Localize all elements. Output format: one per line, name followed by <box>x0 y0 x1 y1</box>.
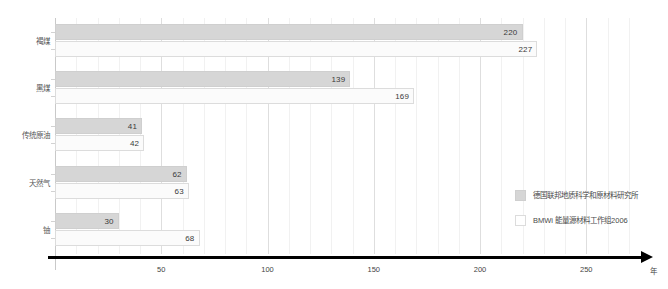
bar-row: 169 <box>55 88 650 104</box>
bar[interactable]: 68 <box>55 230 200 246</box>
value-axis-unit-label: 年 <box>650 265 657 276</box>
value-axis-arrow-icon <box>641 251 653 263</box>
legend-swatch-icon <box>515 190 526 201</box>
legend-item[interactable]: 德国联邦地质科学和原材料研究所 <box>515 190 638 201</box>
bar-row: 42 <box>55 135 650 151</box>
category-axis-label: 褐煤 <box>0 37 50 46</box>
category-axis-label: 传统原油 <box>0 131 50 140</box>
category-axis-label: 铀 <box>0 226 50 235</box>
bar[interactable]: 62 <box>55 166 187 182</box>
bar[interactable]: 227 <box>55 41 537 57</box>
bar[interactable]: 169 <box>55 88 414 104</box>
bar-row: 227 <box>55 41 650 57</box>
value-axis-tick-label: 200 <box>474 265 487 274</box>
bar[interactable]: 30 <box>55 213 119 229</box>
bar-value-label: 227 <box>518 42 532 58</box>
value-axis-tick-label: 50 <box>157 265 165 274</box>
bar[interactable]: 41 <box>55 118 142 134</box>
value-axis-tick-label: 150 <box>367 265 380 274</box>
bar-row: 139 <box>55 71 650 87</box>
bar-value-label: 220 <box>504 25 518 41</box>
value-axis-line <box>48 256 643 259</box>
bar-row: 62 <box>55 166 650 182</box>
bar-value-label: 30 <box>104 214 113 230</box>
bar-group: 4142 <box>55 118 650 151</box>
bar-value-label: 62 <box>172 167 181 183</box>
bar-value-label: 42 <box>130 136 139 152</box>
value-axis-tick-label: 100 <box>261 265 274 274</box>
bar-value-label: 169 <box>395 89 409 105</box>
bar[interactable]: 220 <box>55 24 523 40</box>
bar[interactable]: 42 <box>55 135 144 151</box>
bar-value-label: 41 <box>128 119 137 135</box>
bar-value-label: 139 <box>331 72 345 88</box>
category-labels: 褐煤黑煤传统原油天然气铀 <box>0 18 50 254</box>
legend-item-label: BMWi 能量源材料工作组2006 <box>533 216 628 226</box>
bar[interactable]: 139 <box>55 71 350 87</box>
bar-group: 139169 <box>55 71 650 104</box>
category-axis-label: 天然气 <box>0 179 50 188</box>
legend-item-label: 德国联邦地质科学和原材料研究所 <box>533 191 638 201</box>
legend-swatch-icon <box>515 215 526 226</box>
bar-value-label: 68 <box>185 231 194 247</box>
bar-group: 220227 <box>55 24 650 57</box>
legend: 德国联邦地质科学和原材料研究所 BMWi 能量源材料工作组2006 <box>515 190 638 240</box>
bar-value-label: 63 <box>175 184 184 200</box>
value-axis-tick-label: 250 <box>580 265 593 274</box>
legend-item[interactable]: BMWi 能量源材料工作组2006 <box>515 215 638 226</box>
horizontal-bar-chart: 220227139169414262633068 褐煤黑煤传统原油天然气铀 50… <box>0 0 668 289</box>
bar-row: 41 <box>55 118 650 134</box>
bar-row: 220 <box>55 24 650 40</box>
bar[interactable]: 63 <box>55 183 189 199</box>
category-axis-label: 黑煤 <box>0 84 50 93</box>
